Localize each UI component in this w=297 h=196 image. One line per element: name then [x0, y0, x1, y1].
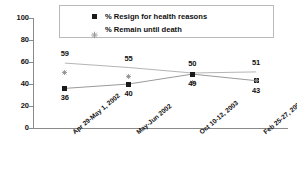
data-point-label: 36: [61, 94, 69, 102]
data-point-label: 50: [188, 60, 196, 68]
legend-item-resign: % Resign for health reasons: [89, 11, 207, 21]
data-point-label: 55: [124, 55, 132, 63]
diamond-marker-icon: [254, 69, 259, 74]
diamond-marker-icon: [89, 25, 101, 33]
data-point-label: 40: [124, 90, 132, 98]
y-tick-label: 20: [1, 102, 29, 110]
legend-label: % Resign for health reasons: [105, 12, 207, 21]
diamond-marker-icon: [190, 71, 195, 76]
x-tick-label: Apr 29-May 1, 2002: [71, 130, 75, 135]
data-point-label: 49: [188, 80, 196, 88]
legend-item-remain: % Remain until death: [89, 24, 182, 34]
series-line-remain: [65, 63, 256, 73]
y-tick-label: 100: [1, 14, 29, 22]
legend: % Resign for health reasons % Remain unt…: [59, 5, 274, 38]
diamond-marker-icon: [62, 61, 67, 66]
series-line-resign: [65, 74, 256, 88]
line-chart: 100 80 60 40 20 0 364049435955: [0, 0, 297, 196]
data-point-label: 51: [252, 59, 260, 67]
y-tick-label: 0: [1, 124, 29, 132]
diamond-marker-icon: [126, 65, 131, 70]
square-marker-icon: [126, 82, 131, 87]
data-point-label: 59: [61, 50, 69, 58]
y-tick-label: 60: [1, 58, 29, 66]
y-tick-label: 40: [1, 80, 29, 88]
data-point-label: 43: [252, 87, 260, 95]
square-marker-icon: [89, 12, 101, 20]
y-tick-label: 80: [1, 36, 29, 44]
legend-label: % Remain until death: [105, 25, 182, 34]
x-tick-label: May-Jun 2002: [135, 130, 139, 135]
x-tick-label: Oct 10-12, 2003: [198, 130, 202, 135]
square-marker-icon: [62, 86, 67, 91]
x-tick-label: Feb 25-27, 2005: [262, 130, 266, 135]
